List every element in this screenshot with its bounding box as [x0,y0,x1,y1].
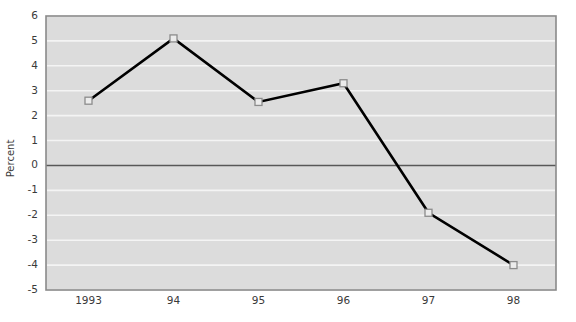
y-tick-label: -4 [8,258,38,270]
data-point-marker [85,97,92,104]
y-tick-label: 6 [8,9,38,21]
y-tick-label: -1 [8,183,38,195]
x-tick-label: 96 [314,294,374,306]
x-tick-label: 1993 [59,294,119,306]
x-tick-label: 98 [484,294,544,306]
y-tick-label: 5 [8,34,38,46]
y-tick-label: -3 [8,233,38,245]
y-tick-label: 4 [8,59,38,71]
line-chart: Percent 6543210-1-2-3-4-5 19939495969798 [0,0,576,322]
plot-area [0,0,576,322]
y-tick-label: -2 [8,208,38,220]
x-tick-label: 97 [399,294,459,306]
data-point-marker [255,98,262,105]
data-point-marker [510,262,517,269]
y-tick-label: -5 [8,283,38,295]
data-point-marker [425,209,432,216]
y-tick-label: 3 [8,84,38,96]
y-tick-label: 1 [8,134,38,146]
data-point-marker [170,35,177,42]
plot-background [46,16,556,290]
data-point-marker [340,80,347,87]
y-tick-label: 0 [8,158,38,170]
x-tick-label: 95 [229,294,289,306]
y-tick-label: 2 [8,109,38,121]
x-tick-label: 94 [144,294,204,306]
